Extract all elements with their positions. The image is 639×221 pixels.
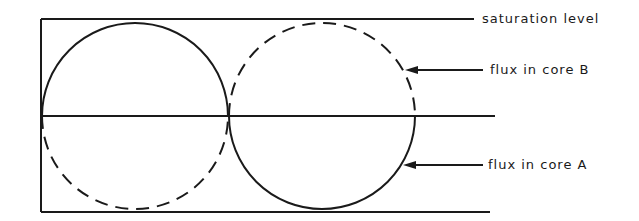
core-b-flux-curve-1 — [42, 116, 228, 209]
saturation-level-label: saturation level — [482, 11, 599, 27]
core-b-flux-curve-2 — [229, 23, 415, 116]
flux-diagram — [0, 0, 639, 221]
core-a-label: flux in core A — [488, 157, 587, 173]
core-a-flux-curve-1 — [42, 23, 228, 116]
core-b-arrowhead-icon — [405, 66, 418, 74]
core-a-flux-curve-2 — [229, 116, 415, 209]
core-b-label: flux in core B — [490, 62, 589, 78]
core-a-arrowhead-icon — [403, 161, 416, 169]
